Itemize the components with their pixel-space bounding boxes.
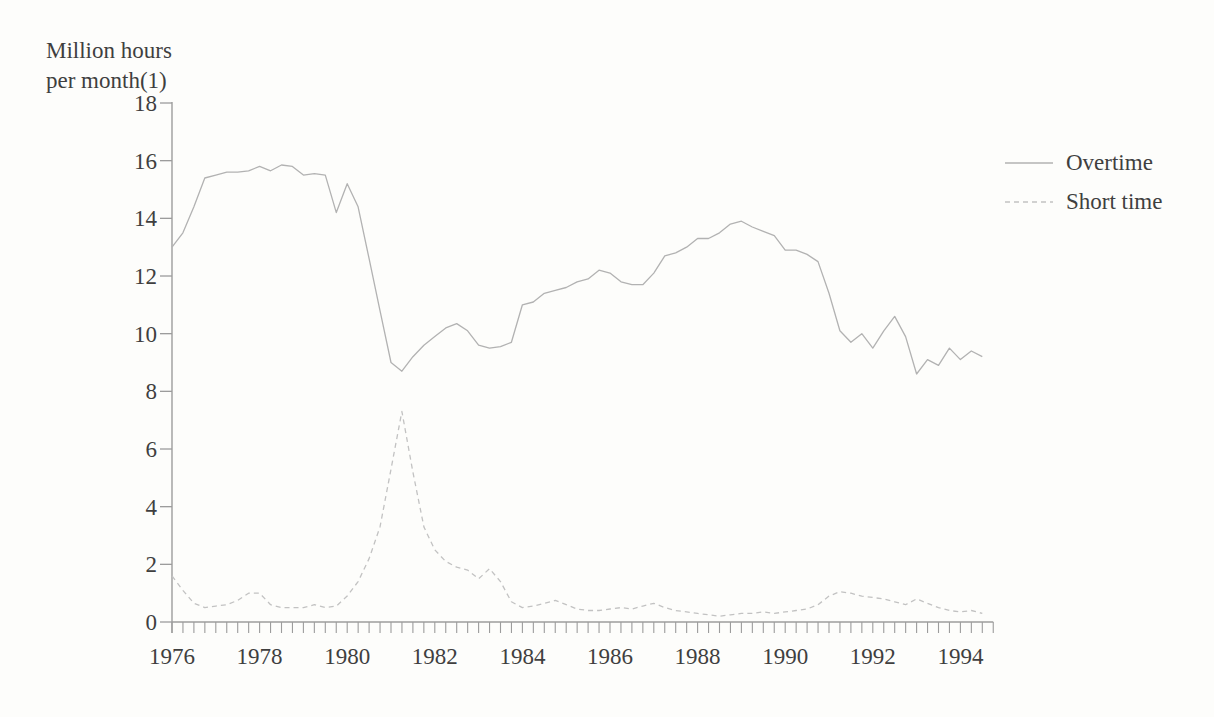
- x-tick-label: 1980: [324, 644, 370, 669]
- x-axis-labels: 1976197819801982198419861988199019921994: [149, 644, 984, 669]
- legend-item-overtime: Overtime: [1005, 149, 1162, 176]
- x-tick-label: 1976: [149, 644, 195, 669]
- axes: [172, 102, 993, 633]
- legend-label-overtime: Overtime: [1066, 150, 1153, 176]
- legend: Overtime Short time: [1005, 149, 1162, 227]
- x-tick-label: 1978: [237, 644, 283, 669]
- x-tick-label: 1986: [587, 644, 633, 669]
- y-tick-label: 16: [134, 149, 157, 174]
- y-tick-label: 0: [146, 610, 158, 635]
- y-tick-label: 8: [146, 379, 158, 404]
- y-tick-label: 6: [146, 437, 158, 462]
- y-axis-ticks: 024681012141618: [134, 91, 172, 635]
- series-line-overtime: [172, 165, 982, 374]
- y-tick-label: 18: [134, 91, 157, 116]
- x-tick-label: 1994: [937, 644, 984, 669]
- y-tick-label: 12: [134, 264, 157, 289]
- y-tick-label: 10: [134, 322, 157, 347]
- short-time-dashed-line-sample-icon: [1005, 200, 1053, 204]
- x-tick-label: 1990: [762, 644, 808, 669]
- x-tick-label: 1984: [499, 644, 546, 669]
- x-tick-label: 1982: [412, 644, 458, 669]
- x-tick-label: 1992: [850, 644, 896, 669]
- chart-canvas: Million hours per month(1) 0246810121416…: [0, 0, 1214, 717]
- series-line-short-time: [172, 412, 982, 617]
- x-tick-label: 1988: [675, 644, 721, 669]
- overtime-line-sample-icon: [1005, 161, 1053, 165]
- x-axis-ticks: [172, 622, 993, 633]
- plot-area: 0246810121416181976197819801982198419861…: [0, 0, 1214, 717]
- y-tick-label: 2: [146, 552, 158, 577]
- y-tick-label: 4: [146, 495, 158, 520]
- legend-item-short-time: Short time: [1005, 188, 1162, 215]
- y-tick-label: 14: [134, 206, 158, 231]
- legend-label-short-time: Short time: [1066, 189, 1162, 215]
